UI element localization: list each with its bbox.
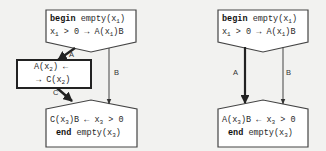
right-top-node-line2: x1 > 0 → A(x1)B [222,27,296,37]
right-edge-b-label: B [286,68,291,77]
diagram-canvas: begin empty(x1) x1 > 0 → A(x1)B A(x2) ← … [0,0,326,151]
left-top-node-line1: begin empty(x1) [50,14,125,24]
left-top-node-line2: x1 > 0 → A(x1)B [50,27,124,37]
right-top-node-line1: begin empty(x1) [222,14,297,24]
left-edge-a-label: A [69,50,74,59]
left-edge-c-arrow [57,88,72,101]
right-edge-a-label: A [233,68,238,77]
left-edge-b-label: B [114,68,119,77]
right-bottom-node-line2: end empty(x3) [228,128,293,138]
right-bottom-node-line1: A(x3)B ← x3 > 0 [222,115,296,125]
left-middle-node-line1: A(x2) ← [34,62,68,72]
left-middle-node-line2: → C(x2) [36,75,70,85]
left-bottom-node-line2: end empty(x3) [56,128,121,138]
left-bottom-node-line1: C(x3)B ← x3 > 0 [50,115,124,125]
left-edge-c-label: C [53,88,58,97]
